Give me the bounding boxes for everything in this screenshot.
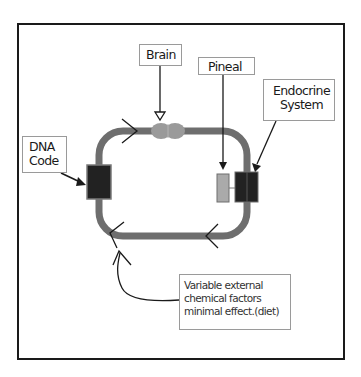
brain-node (151, 123, 185, 139)
external-factors-arrow (113, 251, 179, 301)
dna-code-arrow (61, 173, 86, 186)
pineal-node (217, 174, 229, 202)
pineal-arrow (219, 75, 227, 170)
brain-label: Brain (139, 44, 182, 66)
pineal-label: Pineal (198, 57, 255, 75)
dna-code-node (87, 165, 111, 199)
dna-code-label: DNA Code (22, 136, 67, 173)
brain-arrow (155, 66, 165, 120)
endocrine-system-label: Endocrine System (263, 79, 335, 121)
external-factors-label: Variable external chemical factors minim… (179, 274, 291, 330)
endocrine-arrow (252, 121, 276, 172)
